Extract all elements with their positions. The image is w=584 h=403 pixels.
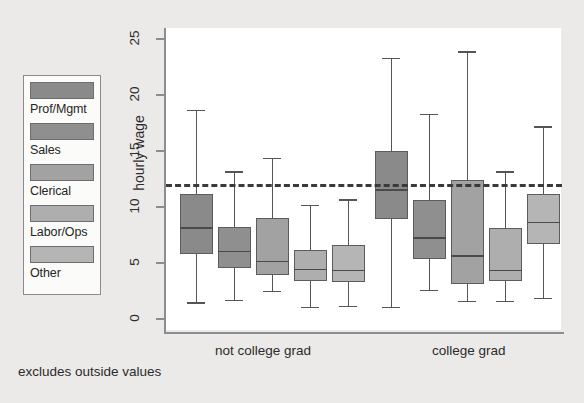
legend-swatch: [30, 205, 94, 222]
lower-whisker: [467, 284, 468, 301]
box-rect: [218, 227, 251, 267]
legend-label: Labor/Ops: [30, 222, 94, 242]
lower-whisker: [391, 219, 392, 306]
upper-whisker: [467, 51, 468, 180]
upper-whisker: [348, 199, 349, 245]
plot-area: [166, 28, 561, 330]
legend-item: Prof/Mgmt: [30, 82, 94, 123]
legend-swatch: [30, 246, 94, 263]
y-tick-label: 10: [127, 189, 143, 223]
upper-whisker: [391, 58, 392, 151]
y-tick: [156, 262, 165, 264]
box-rect: [413, 200, 446, 258]
lower-whisker: [505, 281, 506, 301]
upper-whisker: [429, 114, 430, 200]
median-line: [527, 222, 560, 224]
median-line: [375, 189, 408, 191]
legend-item: Labor/Ops: [30, 205, 94, 246]
lower-whisker-cap: [339, 306, 357, 307]
x-axis-line: [164, 332, 564, 334]
upper-whisker-cap: [420, 114, 438, 115]
upper-whisker-cap: [382, 58, 400, 59]
lower-whisker: [348, 282, 349, 306]
group-label-college-grad: college grad: [432, 343, 506, 358]
legend-swatch: [30, 82, 94, 99]
legend-label: Clerical: [30, 181, 94, 201]
legend-swatch: [30, 164, 94, 181]
upper-whisker-cap: [496, 171, 514, 172]
y-tick-label: 15: [127, 133, 143, 167]
lower-whisker-cap: [420, 290, 438, 291]
y-tick: [156, 150, 165, 152]
upper-whisker: [272, 158, 273, 218]
median-line: [451, 255, 484, 257]
legend-swatch: [30, 123, 94, 140]
upper-whisker-cap: [225, 171, 243, 172]
group-label-not-college-grad: not college grad: [215, 343, 311, 358]
y-axis-line: [164, 28, 166, 333]
upper-whisker: [234, 171, 235, 227]
lower-whisker-cap: [301, 307, 319, 308]
median-line: [256, 261, 289, 263]
box-rect: [451, 180, 484, 284]
y-tick-label: 0: [127, 301, 143, 335]
lower-whisker-cap: [263, 291, 281, 292]
lower-whisker: [429, 259, 430, 290]
lower-whisker-cap: [496, 301, 514, 302]
lower-whisker-cap: [458, 301, 476, 302]
legend-item: Sales: [30, 123, 94, 164]
box-rect: [489, 228, 522, 281]
upper-whisker: [505, 171, 506, 228]
upper-whisker: [310, 205, 311, 250]
box-rect: [256, 218, 289, 275]
y-tick-label: 20: [127, 77, 143, 111]
upper-whisker-cap: [534, 126, 552, 127]
median-line: [218, 251, 251, 253]
median-line: [332, 270, 365, 272]
legend: Prof/MgmtSalesClericalLabor/OpsOther: [23, 75, 101, 295]
median-line: [489, 270, 522, 272]
lower-whisker-cap: [225, 300, 243, 301]
median-line: [294, 269, 327, 271]
upper-whisker-cap: [263, 158, 281, 159]
box-rect: [332, 245, 365, 282]
lower-whisker-cap: [382, 307, 400, 308]
upper-whisker-cap: [187, 110, 205, 111]
median-line: [180, 227, 213, 229]
upper-whisker-cap: [458, 51, 476, 52]
chart-root: hourly wage 0510152025 Prof/MgmtSalesCle…: [0, 0, 584, 403]
legend-item: Other: [30, 246, 94, 287]
lower-whisker: [310, 281, 311, 307]
y-tick: [156, 206, 165, 208]
lower-whisker: [543, 244, 544, 298]
y-tick-label: 5: [127, 245, 143, 279]
y-tick: [156, 94, 165, 96]
reference-line: [166, 184, 562, 187]
lower-whisker-cap: [534, 298, 552, 299]
box-rect: [180, 194, 213, 254]
median-line: [413, 237, 446, 239]
upper-whisker-cap: [301, 205, 319, 206]
upper-whisker: [196, 110, 197, 194]
y-tick-label: 25: [127, 21, 143, 55]
chart-footnote: excludes outside values: [18, 364, 161, 379]
box-rect: [294, 250, 327, 281]
y-tick: [156, 318, 165, 320]
legend-label: Prof/Mgmt: [30, 99, 94, 119]
upper-whisker-cap: [339, 199, 357, 200]
lower-whisker-cap: [187, 302, 205, 303]
legend-item: Clerical: [30, 164, 94, 205]
legend-label: Sales: [30, 140, 94, 160]
y-tick: [156, 38, 165, 40]
lower-whisker: [272, 275, 273, 291]
legend-label: Other: [30, 263, 94, 283]
box-rect: [527, 194, 560, 244]
lower-whisker: [234, 268, 235, 300]
lower-whisker: [196, 254, 197, 302]
